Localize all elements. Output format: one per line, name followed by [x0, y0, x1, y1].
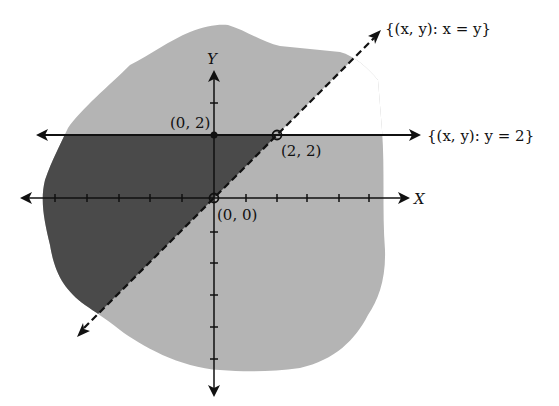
- x-axis-label: X: [413, 190, 426, 208]
- point-0-2: [211, 132, 218, 139]
- label-point-0-0: (0, 0): [217, 206, 257, 224]
- light-region: [0, 0, 559, 406]
- label-point-2-2: (2, 2): [281, 142, 321, 160]
- label-y-equals-2: {(x, y): y = 2}: [427, 127, 534, 145]
- inequality-graph: X Y {(x, y): y = 2} {(x, y): x = y} (0, …: [0, 0, 559, 406]
- label-point-0-2: (0, 2): [170, 114, 210, 132]
- label-x-equals-y: {(x, y): x = y}: [385, 20, 491, 38]
